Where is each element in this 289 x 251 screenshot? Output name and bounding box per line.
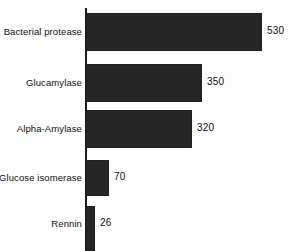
bar-glucamylase[interactable] [86, 64, 202, 102]
category-label: Alpha-Amylase [17, 124, 82, 134]
category-label: Glucamylase [26, 78, 82, 88]
value-label: 26 [100, 218, 112, 228]
value-label: 530 [267, 26, 284, 36]
value-label: 350 [207, 77, 224, 87]
category-label: Bacterial protease [4, 27, 82, 37]
value-label: 70 [114, 172, 126, 182]
bar-alpha-amylase[interactable] [86, 110, 192, 148]
bar-chart: Bacterial protease 530 Glucamylase 350 A… [0, 0, 289, 251]
category-label: Glucose isomerase [0, 173, 82, 183]
bar-glucose-isomerase[interactable] [86, 160, 109, 196]
category-label: Rennin [51, 219, 82, 229]
bar-rennin[interactable] [86, 206, 95, 251]
value-label: 320 [197, 123, 214, 133]
bar-bacterial-protease[interactable] [86, 13, 262, 51]
